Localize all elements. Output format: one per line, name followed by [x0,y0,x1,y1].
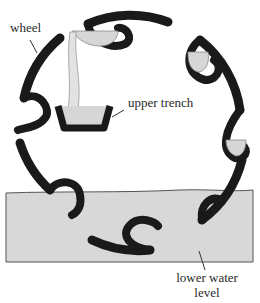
water-stream [68,32,79,110]
upper-trench [58,106,110,128]
lower-water-label-line2: level [162,285,252,300]
water-wheel-diagram: wheel upper trench lower water level [0,0,260,303]
lower-water-label-line1: lower water [162,270,252,285]
wheel-label: wheel [10,20,41,35]
diagram-canvas [0,0,260,303]
bucket-water [72,31,246,156]
lower-water-level-label: lower water level [162,270,252,300]
upper-trench-label: upper trench [128,95,193,110]
